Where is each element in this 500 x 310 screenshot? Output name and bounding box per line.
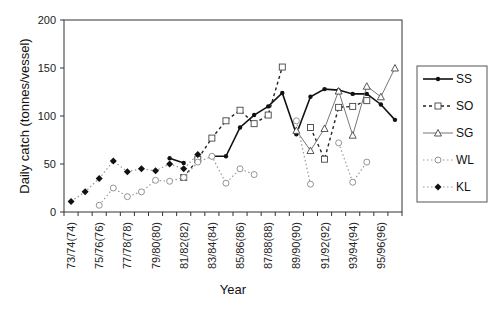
legend-box — [417, 66, 487, 202]
x-axis-title: Year — [220, 282, 247, 297]
y-tick-label: 150 — [38, 62, 56, 74]
data-point — [279, 64, 285, 70]
data-point — [322, 156, 328, 162]
y-axis-title: Daily catch (tonnes/vessel) — [17, 38, 32, 193]
data-point — [167, 178, 173, 184]
series-wl — [96, 118, 370, 208]
data-point — [251, 172, 257, 178]
x-tick-label: 79/80(80) — [150, 222, 162, 269]
data-point — [307, 147, 314, 154]
legend-label: SG — [456, 126, 473, 140]
data-point — [138, 189, 144, 195]
series-so — [181, 64, 370, 180]
data-point — [336, 140, 342, 146]
data-point — [223, 180, 229, 186]
data-point — [237, 166, 243, 172]
y-tick-label: 50 — [44, 158, 56, 170]
series-line — [296, 68, 395, 151]
y-axis: 050100150200 — [38, 14, 64, 218]
data-point — [351, 92, 355, 96]
legend-marker — [435, 103, 441, 109]
data-point — [293, 118, 299, 124]
x-tick-label: 95/96(96) — [375, 222, 387, 269]
data-point — [224, 154, 228, 158]
data-point — [238, 125, 242, 129]
legend-label: SS — [456, 72, 472, 86]
data-point — [307, 181, 313, 187]
data-point — [68, 198, 75, 205]
data-point — [363, 83, 370, 90]
series-layer — [68, 64, 399, 208]
x-tick-label: 89/90(90) — [290, 222, 302, 269]
y-tick-label: 0 — [50, 206, 56, 218]
x-tick-label: 85/86(86) — [234, 222, 246, 269]
legend-label: WL — [456, 153, 474, 167]
data-point — [166, 161, 173, 168]
data-point — [322, 87, 326, 91]
data-point — [223, 118, 229, 124]
data-point — [195, 159, 201, 165]
legend-marker — [436, 77, 440, 81]
data-point — [180, 165, 187, 172]
data-point — [393, 118, 397, 122]
legend-label: SO — [456, 99, 473, 113]
x-tick-label: 75/76(76) — [93, 222, 105, 269]
data-point — [209, 153, 215, 159]
data-point — [237, 107, 243, 113]
x-axis: 73/74(74)75/76(76)77/78(78)79/80(80)81/8… — [64, 212, 402, 269]
series-line — [170, 158, 184, 163]
data-point — [336, 104, 342, 110]
data-point — [321, 125, 328, 131]
chart: 050100150200 73/74(74)75/76(76)77/78(78)… — [0, 0, 500, 310]
data-point — [391, 65, 398, 72]
data-point — [153, 177, 159, 183]
data-point — [350, 103, 356, 109]
data-point — [280, 91, 284, 95]
data-point — [152, 167, 159, 174]
x-tick-label: 83/84(84) — [206, 222, 218, 269]
data-point — [252, 113, 256, 117]
data-point — [350, 179, 356, 185]
data-point — [379, 102, 383, 106]
data-point — [307, 125, 313, 131]
data-point — [96, 202, 102, 208]
data-point — [167, 156, 171, 160]
x-tick-label: 81/82(82) — [178, 222, 190, 269]
data-point — [181, 174, 187, 180]
x-tick-label: 87/88(88) — [262, 222, 274, 269]
data-point — [266, 104, 270, 108]
x-tick-label: 91/92(92) — [319, 222, 331, 269]
series-sg — [293, 65, 399, 154]
series-line — [339, 143, 367, 182]
data-point — [110, 185, 116, 191]
data-point — [124, 194, 130, 200]
data-point — [308, 95, 312, 99]
legend-label: KL — [456, 180, 471, 194]
data-point — [377, 93, 384, 100]
x-tick-label: 73/74(74) — [65, 222, 77, 269]
data-point — [182, 161, 186, 165]
data-point — [364, 159, 370, 165]
data-point — [110, 158, 117, 165]
data-point — [349, 132, 356, 139]
y-tick-label: 100 — [38, 110, 56, 122]
data-point — [251, 121, 257, 127]
legend-marker — [435, 157, 441, 163]
x-tick-label: 77/78(78) — [121, 222, 133, 269]
data-point — [209, 135, 215, 141]
y-tick-label: 200 — [38, 14, 56, 26]
x-tick-label: 93/94(94) — [347, 222, 359, 269]
series-line — [99, 156, 254, 205]
data-point — [265, 112, 271, 118]
data-point — [364, 98, 370, 104]
data-point — [138, 165, 145, 172]
legend: SSSOSGWLKL — [417, 66, 487, 202]
